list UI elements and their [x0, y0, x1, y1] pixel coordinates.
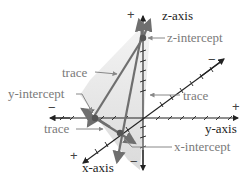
x-axis-label: x-axis — [82, 160, 114, 175]
diagram-canvas: + − + − + − z-axis y-axis x-axis z-inter… — [0, 0, 247, 175]
z-axis-minus-sign: − — [130, 154, 138, 169]
y-axis-plus-sign: + — [232, 99, 240, 114]
z-intercept-label: z-intercept — [167, 30, 223, 45]
z-axis-plus-sign: + — [127, 7, 135, 22]
x-intercept-label: x-intercept — [174, 139, 231, 154]
z-axis-label: z-axis — [162, 8, 193, 23]
x-intercept-point — [117, 130, 123, 136]
y-intercept-label: y-intercept — [8, 86, 65, 101]
trace-2-label: trace — [183, 88, 208, 103]
z-intercept-point — [140, 35, 146, 41]
y-axis-minus-sign: − — [48, 100, 56, 115]
y-intercept-point — [92, 115, 98, 121]
y-axis-label: y-axis — [205, 121, 237, 136]
x-axis-plus-sign: + — [70, 148, 78, 163]
trace-3-label: trace — [44, 121, 69, 136]
x-axis-minus-sign: − — [208, 52, 216, 67]
trace-1-label: trace — [62, 65, 87, 80]
